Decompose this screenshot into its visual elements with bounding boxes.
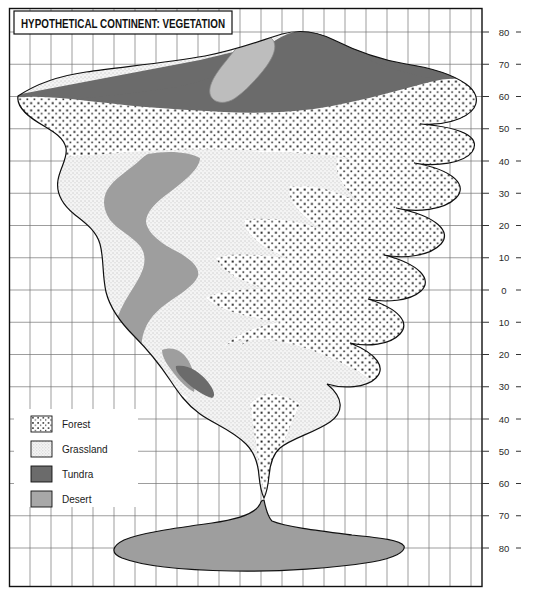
- legend-label-tundra: Tundra: [62, 469, 94, 480]
- lat-tick-label: 50: [499, 446, 510, 457]
- lat-tick-label: 70: [499, 510, 510, 521]
- lat-tick-label: 60: [499, 478, 510, 489]
- legend-item-tundra[interactable]: Tundra: [31, 466, 94, 482]
- legend-item-desert[interactable]: Desert: [31, 491, 92, 507]
- lat-tick-label: 20: [499, 220, 510, 231]
- lat-tick-label: 10: [499, 317, 510, 328]
- lat-tick-label: 80: [499, 27, 510, 38]
- lat-tick-label: 80: [499, 543, 510, 554]
- title-text: HYPOTHETICAL CONTINENT: VEGETATION: [21, 16, 225, 31]
- lat-tick-label: 0: [501, 285, 506, 296]
- legend-label-forest: Forest: [62, 419, 91, 430]
- legend-label-grassland: Grassland: [62, 444, 108, 455]
- map-title: HYPOTHETICAL CONTINENT: VEGETATION: [14, 11, 232, 34]
- lat-tick-label: 30: [499, 188, 510, 199]
- legend-item-grassland[interactable]: Grassland: [31, 441, 108, 457]
- lat-tick-label: 30: [499, 381, 510, 392]
- map-figure: 80 70 60 50 40 30 20 10 0 10 20 30 40 50…: [0, 0, 533, 596]
- lat-tick-label: 10: [499, 252, 510, 263]
- lat-tick-label: 50: [499, 123, 510, 134]
- lat-tick-label: 70: [499, 59, 510, 70]
- lat-tick-label: 60: [499, 91, 510, 102]
- map-legend: Forest Grassland Tundra Desert: [14, 409, 138, 507]
- legend-swatch-forest: [31, 416, 52, 432]
- lat-tick-label: 20: [499, 349, 510, 360]
- lat-tick-label: 40: [499, 414, 510, 425]
- legend-swatch-tundra: [31, 466, 52, 482]
- legend-swatch-grassland: [31, 441, 52, 457]
- lat-tick-label: 40: [499, 156, 510, 167]
- legend-swatch-desert: [31, 491, 52, 507]
- vegetation-map: 80 70 60 50 40 30 20 10 0 10 20 30 40 50…: [0, 0, 533, 596]
- legend-label-desert: Desert: [62, 494, 92, 505]
